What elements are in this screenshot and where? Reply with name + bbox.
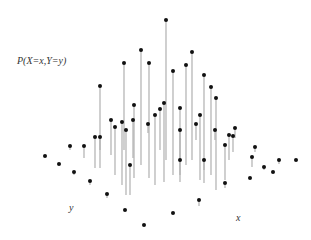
stem-marker <box>223 181 227 185</box>
stem-marker <box>131 118 135 122</box>
stem-marker <box>122 61 126 65</box>
stem-marker <box>68 144 72 148</box>
stem-marker <box>214 96 218 100</box>
stem-marker <box>162 101 166 105</box>
stem-marker <box>88 179 92 183</box>
stem-marker <box>253 145 257 149</box>
y-axis-label: y <box>69 202 73 213</box>
stem-marker <box>184 63 188 67</box>
stem-marker <box>43 154 47 158</box>
stem-marker <box>213 128 217 132</box>
stem-marker <box>128 163 132 167</box>
stem-marker <box>146 122 150 126</box>
stem-marker <box>248 176 252 180</box>
stem-marker <box>190 50 194 54</box>
stem-marker <box>153 113 157 117</box>
stem-marker <box>178 158 182 162</box>
stem-marker <box>139 48 143 52</box>
stem-marker <box>227 133 231 137</box>
stem-marker <box>223 143 227 147</box>
stem-marker <box>202 73 206 77</box>
stem-marker <box>178 128 182 132</box>
stem-marker <box>57 162 61 166</box>
stem-marker <box>231 134 235 138</box>
stem-marker <box>250 155 254 159</box>
z-axis-label: P(X=x,Y=y) <box>17 55 66 66</box>
stem-marker <box>209 85 213 89</box>
stem-marker <box>142 223 146 227</box>
stem-marker <box>262 165 266 169</box>
stem-marker <box>202 158 206 162</box>
x-axis-label: x <box>236 212 240 223</box>
stem-marker <box>98 84 102 88</box>
stem-marker <box>198 113 202 117</box>
stem-marker <box>120 120 124 124</box>
stem-marker <box>124 128 128 132</box>
stem-marker <box>109 118 113 122</box>
stem-marker <box>113 125 117 129</box>
stem-marker <box>72 170 76 174</box>
stem-marker <box>132 103 136 107</box>
stem-marker <box>294 158 298 162</box>
stem-marker <box>164 18 168 22</box>
stem-marker <box>194 122 198 126</box>
stem-marker <box>98 135 102 139</box>
stem-marker <box>147 61 151 65</box>
stem-marker <box>123 208 127 212</box>
stem-marker <box>171 211 175 215</box>
stem-marker <box>277 158 281 162</box>
stem-marker <box>171 69 175 73</box>
stem-marker <box>178 106 182 110</box>
stem-marker <box>271 170 275 174</box>
stem-marker <box>233 126 237 130</box>
stem-marker <box>158 107 162 111</box>
stem-marker <box>105 192 109 196</box>
stem-marker <box>93 135 97 139</box>
stem-marker <box>82 144 86 148</box>
stem-plot <box>0 0 311 240</box>
stem-marker <box>197 198 201 202</box>
